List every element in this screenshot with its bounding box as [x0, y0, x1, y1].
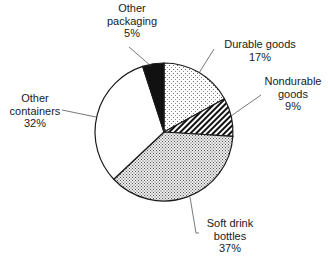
label-line: goods: [258, 88, 328, 101]
label-line: Other: [4, 92, 66, 105]
label-nondurable-goods: Nondurable goods 9%: [258, 75, 328, 113]
label-line: containers: [4, 105, 66, 118]
label-line: Other: [100, 2, 164, 15]
leader-nondurable-goods: [231, 95, 261, 116]
label-line: 32%: [4, 117, 66, 130]
leader-other-containers: [62, 110, 96, 117]
label-line: Durable goods: [210, 38, 310, 51]
label-line: bottles: [195, 230, 265, 243]
label-durable-goods: Durable goods 17%: [210, 38, 310, 63]
label-line: 17%: [210, 51, 310, 64]
label-other-packaging: Other packaging 5%: [100, 2, 164, 40]
label-line: Soft drink: [195, 217, 265, 230]
leader-other-packaging: [129, 47, 151, 66]
label-line: 37%: [195, 242, 265, 255]
pie-slices: [95, 63, 233, 201]
label-line: Nondurable: [258, 75, 328, 88]
label-line: packaging: [100, 15, 164, 28]
label-line: 9%: [258, 100, 328, 113]
label-other-containers: Other containers 32%: [4, 92, 66, 130]
label-line: 5%: [100, 27, 164, 40]
label-soft-drink-bottles: Soft drink bottles 37%: [195, 217, 265, 255]
